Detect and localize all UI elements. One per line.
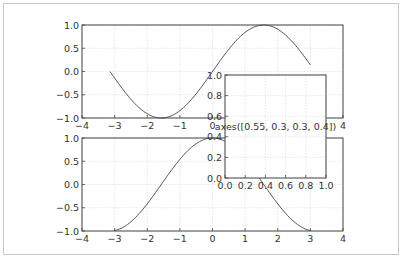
y-tick-label: 1.0 (64, 20, 79, 31)
y-tick-label: 0.0 (207, 173, 222, 184)
x-tick-label: 4 (340, 233, 346, 244)
x-tick-label: −1 (173, 120, 187, 131)
axes-annotation: axes([0.55, 0.3, 0.3, 0.4]) (215, 121, 336, 132)
y-tick-label: −0.5 (56, 202, 79, 213)
y-tick-label: 0.4 (207, 131, 222, 142)
y-tick-label: 0.0 (64, 66, 79, 77)
y-tick-label: −0.5 (56, 89, 79, 100)
inset-axes: 0.00.20.40.60.81.01.00.80.60.40.20.0axes… (207, 70, 336, 192)
figure-canvas: −4−3−2−1012341.00.50.0−0.5−1.0 −4−3−2−10… (0, 0, 403, 259)
x-tick-label: 4 (340, 120, 346, 131)
x-tick-label: 1.0 (318, 180, 333, 191)
x-tick-label: 0.8 (298, 180, 313, 191)
x-tick-label: 0.6 (278, 180, 293, 191)
x-tick-label: 0 (209, 233, 215, 244)
x-tick-label: 3 (307, 233, 313, 244)
x-tick-label: −1 (173, 233, 187, 244)
y-tick-label: −1.0 (56, 113, 79, 124)
y-tick-label: 0.5 (64, 156, 79, 167)
x-tick-label: 0.4 (258, 180, 273, 191)
x-tick-label: 0.2 (238, 180, 253, 191)
x-tick-label: −3 (108, 233, 122, 244)
y-tick-label: 0.0 (64, 179, 79, 190)
y-tick-label: 1.0 (207, 70, 222, 81)
y-tick-label: 0.8 (207, 90, 222, 101)
x-tick-label: −2 (140, 120, 154, 131)
x-tick-label: 2 (275, 233, 281, 244)
x-tick-label: −2 (140, 233, 154, 244)
y-tick-label: 0.2 (207, 152, 222, 163)
y-tick-label: −1.0 (56, 226, 79, 237)
x-tick-label: 1 (242, 233, 248, 244)
x-tick-label: −3 (108, 120, 122, 131)
y-tick-label: 0.5 (64, 43, 79, 54)
y-tick-label: 1.0 (64, 133, 79, 144)
